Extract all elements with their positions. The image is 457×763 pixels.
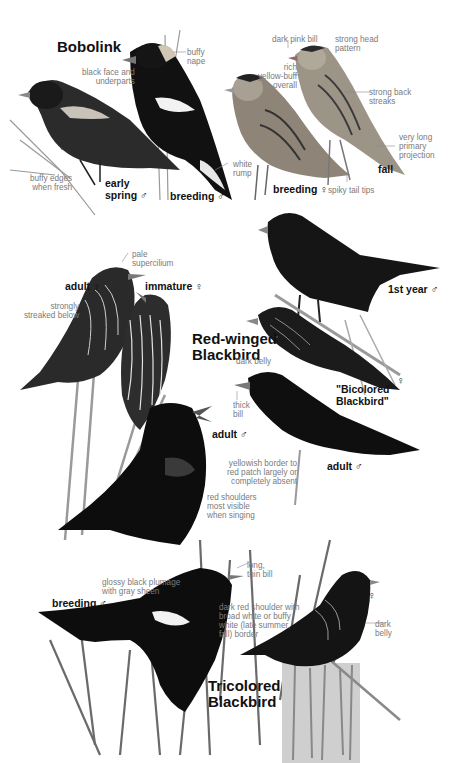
figure-label-bobolink-fall: fall: [378, 163, 393, 175]
figure-label-bobolink-breeding-female: breeding ♀: [273, 183, 328, 195]
annotation-dark-belly-redwing: dark belly: [236, 357, 271, 366]
figure-label-early-spring-male: earlyspring ♂: [105, 177, 148, 201]
annotation-thick-bill: thickbill: [233, 401, 250, 419]
bird-illustrations: [0, 0, 457, 763]
figure-label-bicolored-adult-male: adult ♂: [327, 460, 363, 472]
annotation-strong-back-streaks: strong backstreaks: [369, 88, 411, 106]
annotation-yellow-buff: richyellow-buffoverall: [258, 63, 297, 90]
annotation-primary-projection: very longprimaryprojection: [399, 133, 435, 160]
annotation-pale-supercilium: palesupercilium: [132, 250, 173, 268]
figure-label-bicolored-female-symbol: ♀: [397, 374, 405, 386]
figure-label-redwing-adult-female: adult ♀: [65, 280, 101, 292]
redwing-1st-year-male-figure: [258, 213, 440, 322]
annotation-strongly-streaked: stronglystreaked below: [24, 302, 79, 320]
figure-label-redwing-1st-year-male: 1st year ♂: [388, 283, 439, 295]
species-title-bobolink: Bobolink: [57, 39, 121, 55]
annotation-spiky-tail-tips: spiky tail tips: [328, 186, 374, 195]
figure-label-redwing-immature-female: immature ♀: [145, 280, 203, 292]
figure-label-singing-adult-male: adult ♂: [212, 428, 248, 440]
figure-label-bicolored-blackbird: "BicoloredBlackbird": [336, 383, 389, 407]
figure-label-tricolored-female-symbol: ♀: [368, 589, 376, 601]
field-guide-plate: Bobolink buffynape black face andunderpa…: [0, 0, 457, 763]
annotation-dark-belly-tricolored: darkbelly: [375, 620, 392, 638]
annotation-white-rump: whiterump: [233, 160, 252, 178]
annotation-red-shoulders: red shouldersmost visiblewhen singing: [207, 493, 257, 520]
annotation-black-face: black face andunderparts: [82, 68, 135, 86]
annotation-glossy-black: glossy black plumagewith gray sheen: [102, 578, 180, 596]
annotation-yellowish-border: yellowish border tored patch largely orc…: [227, 459, 297, 486]
annotation-long-thin-bill: long,thin bill: [247, 561, 273, 579]
figure-label-bobolink-breeding-male: breeding ♂: [170, 190, 225, 202]
annotation-strong-head-pattern: strong headpattern: [335, 35, 378, 53]
annotation-buffy-nape: buffynape: [187, 48, 205, 66]
annotation-buffy-edges: buffy edgeswhen fresh: [30, 174, 72, 192]
wooden-post: [282, 663, 360, 763]
figure-label-tricolored-breeding-male: breeding ♂: [52, 597, 107, 609]
species-title-tricolored-blackbird: TricoloredBlackbird: [208, 678, 281, 710]
annotation-dark-red-shoulder: dark red shoulder withbroad white or buf…: [219, 603, 300, 639]
annotation-dark-pink-bill: dark pink bill: [272, 35, 318, 44]
